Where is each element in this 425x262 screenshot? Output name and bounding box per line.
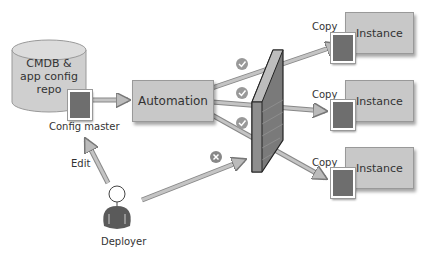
copy-label: Copy (312, 21, 337, 32)
blocked-x-icon (210, 151, 222, 163)
deployer-label: Deployer (101, 236, 146, 247)
copy-doc-icon (331, 100, 355, 130)
check-icon (236, 117, 248, 129)
deployer-to-firewall-arrow (142, 160, 244, 200)
copy-label: Copy (312, 89, 337, 100)
automation-box: Automation (132, 80, 214, 122)
automation-label: Automation (138, 94, 208, 108)
repo-label-line2: app config (12, 70, 86, 83)
copy-label: Copy (312, 157, 337, 168)
deployer-person-icon (103, 186, 131, 229)
instance-label: Instance (356, 162, 403, 175)
config-master-doc-icon (68, 90, 92, 120)
instance-box-1: Instance (345, 12, 414, 54)
copy-doc-icon (331, 168, 355, 198)
instance-box-2: Instance (345, 80, 414, 122)
config-master-label: Config master (49, 121, 120, 132)
instance-box-3: Instance (345, 147, 414, 189)
check-icon (236, 58, 248, 70)
instance-label: Instance (356, 27, 403, 40)
instance-label: Instance (356, 95, 403, 108)
edit-label: Edit (71, 158, 90, 169)
copy-doc-icon (331, 33, 355, 63)
check-icon (236, 87, 248, 99)
repo-label-line1: CMDB & (12, 57, 86, 70)
